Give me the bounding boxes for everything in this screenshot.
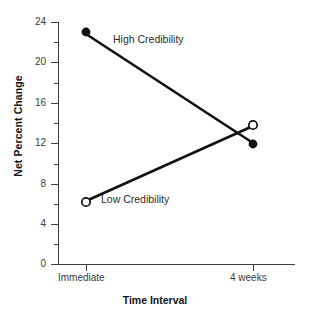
series-line-low-credibility [86, 126, 253, 201]
y-axis-title: Net Percent Change [12, 56, 24, 196]
datapoint-low-4weeks [249, 121, 257, 129]
line-chart: 24 20 16 12 8 4 0 Immediate 4 weeks High… [0, 0, 310, 319]
datapoint-high-immediate [82, 28, 91, 37]
datapoint-high-4weeks [249, 140, 258, 149]
plot-area [0, 0, 310, 319]
datapoint-low-immediate [82, 198, 90, 206]
x-axis-title: Time Interval [0, 294, 310, 306]
series-line-high-credibility [86, 34, 253, 143]
series-label-low-credibility: Low Credibility [101, 193, 169, 205]
series-label-high-credibility: High Credibility [113, 33, 184, 45]
